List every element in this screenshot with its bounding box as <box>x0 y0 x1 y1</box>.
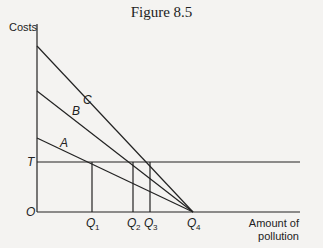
x-tick-q2-sub: 2 <box>136 223 141 232</box>
y-axis-label: Costs <box>9 21 38 33</box>
x-tick-q1: Q <box>86 216 95 230</box>
series-label-b: B <box>72 104 80 118</box>
x-tick-q4: Q <box>187 216 196 230</box>
x-axis-label-line1: Amount of <box>249 217 300 229</box>
line-b <box>37 91 193 212</box>
origin-label: O <box>26 205 35 219</box>
x-tick-q4-sub: 4 <box>196 223 201 232</box>
x-tick-q2: Q <box>127 216 136 230</box>
x-tick-q3: Q <box>144 216 153 230</box>
x-axis-label-line2: pollution <box>258 230 299 242</box>
chart: Costs C B A T O Q 1 Q 2 Q 3 Q 4 Amount o… <box>0 0 323 248</box>
y-tick-t: T <box>27 155 36 169</box>
series-label-a: A <box>59 136 68 150</box>
line-c <box>37 46 193 212</box>
series-label-c: C <box>83 93 92 107</box>
x-tick-q3-sub: 3 <box>153 223 158 232</box>
x-tick-q1-sub: 1 <box>95 223 100 232</box>
